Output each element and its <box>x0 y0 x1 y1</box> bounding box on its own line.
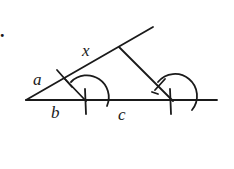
tick-mark-a <box>57 70 72 87</box>
parallel-transversal <box>119 47 173 101</box>
diagram-canvas: . a x b c <box>0 0 234 169</box>
label-b: b <box>51 104 60 121</box>
label-a: a <box>33 71 42 88</box>
upper-ray <box>26 27 153 100</box>
cross-mark-2b <box>152 92 158 94</box>
label-c: c <box>118 106 126 123</box>
arc-tick-2 <box>170 89 171 114</box>
arc-tick-1 <box>85 89 86 114</box>
label-x: x <box>82 42 90 59</box>
